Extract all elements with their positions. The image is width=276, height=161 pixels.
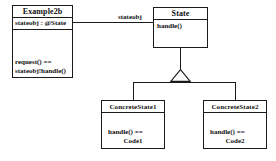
class-operations-concretestate1: handle() == Code1 (102, 113, 164, 148)
operations-inner: request() == stateobj!handle() (15, 58, 66, 76)
association-role-label: stateobj (117, 13, 143, 21)
class-name-concretestate1: ConcreteState1 (102, 101, 164, 113)
class-name-example2b: Example2b (13, 6, 72, 18)
generalization-hollow-triangle-icon (170, 69, 191, 82)
class-name-concretestate2: ConcreteState2 (204, 101, 266, 113)
attribute-row: stateobj : @State (15, 18, 70, 29)
class-operations-state: handle() (154, 20, 207, 48)
class-box-concretestate2[interactable]: ConcreteState2 handle() == Code2 (203, 100, 267, 149)
operation-row: handle() (157, 21, 204, 31)
class-box-state[interactable]: State handle() (153, 7, 208, 48)
generalization-drop-concretestate2 (235, 82, 236, 100)
class-operations-example2b: request() == stateobj!handle() (13, 30, 72, 77)
generalization-bus-line (133, 82, 235, 83)
association-line-context-state (73, 22, 153, 23)
uml-class-diagram: stateobj Example2b stateobj : @State req… (0, 0, 276, 161)
class-box-concretestate1[interactable]: ConcreteState1 handle() == Code1 (101, 100, 165, 149)
class-operations-concretestate2: handle() == Code2 (204, 113, 266, 148)
operations-inner: handle() == Code1 (102, 128, 164, 146)
generalization-drop-concretestate1 (133, 82, 134, 100)
operation-body-row: Code2 (204, 137, 266, 146)
operation-row: handle() == (204, 128, 266, 137)
generalization-stem (180, 48, 181, 70)
operation-row: handle() == (102, 128, 164, 137)
class-attributes-example2b: stateobj : @State (13, 18, 72, 30)
operation-body-row: Code1 (102, 137, 164, 146)
class-name-state: State (154, 8, 207, 20)
operations-inner: handle() == Code2 (204, 128, 266, 146)
operation-body-row: stateobj!handle() (15, 67, 66, 76)
operation-row: request() == (15, 58, 66, 67)
class-box-example2b[interactable]: Example2b stateobj : @State request() ==… (12, 5, 73, 78)
